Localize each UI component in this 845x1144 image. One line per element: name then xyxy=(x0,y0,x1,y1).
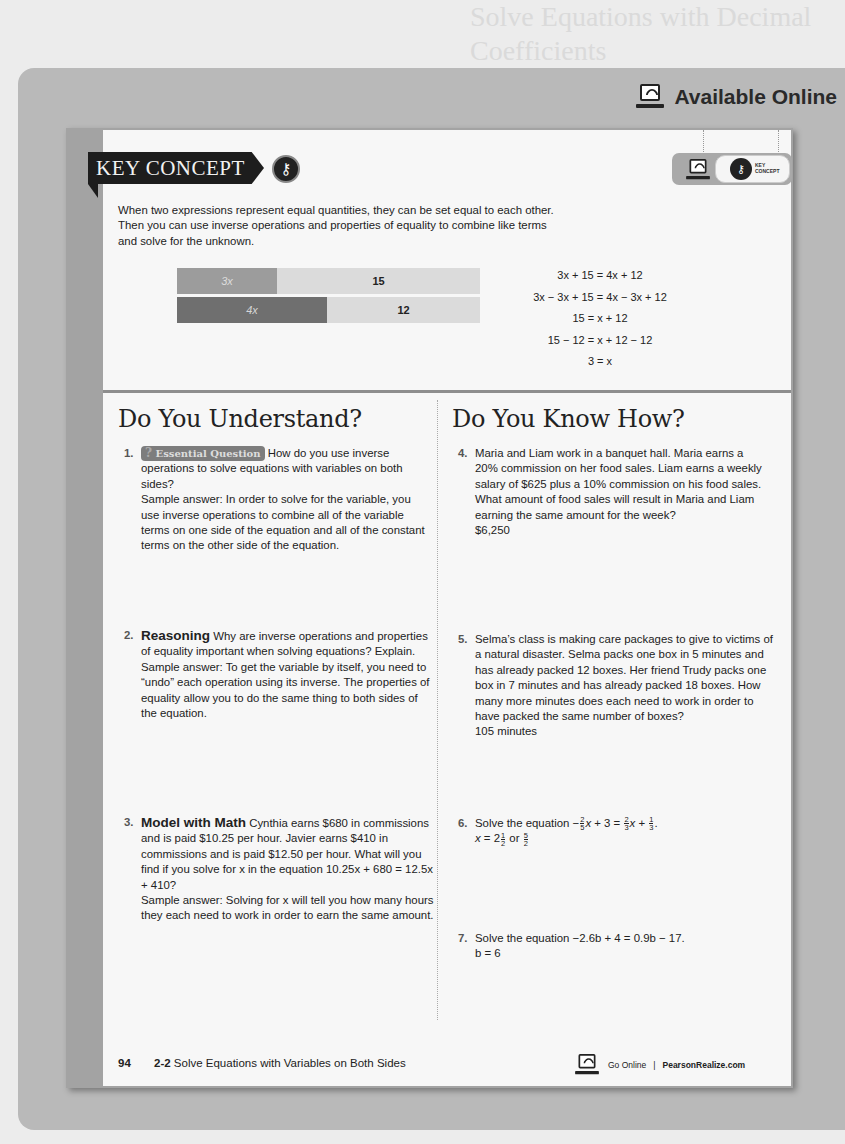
dotted-guide xyxy=(778,130,779,152)
laptop-wifi-icon xyxy=(575,1054,599,1076)
bar-model-row-2: 4x 12 xyxy=(177,297,480,323)
question-4: 4. Maria and Liam work in a banquet hall… xyxy=(475,446,765,538)
lesson-number: 2-2 xyxy=(154,1057,171,1069)
equation-step: 3 = x xyxy=(500,351,700,373)
answer: b = 6 xyxy=(475,947,501,959)
laptop-wifi-icon xyxy=(636,84,664,110)
equation-step: 15 − 12 = x + 12 − 12 xyxy=(500,330,700,352)
question-5: 5. Selma’s class is making care packages… xyxy=(475,632,775,740)
bar-segment-15: 15 xyxy=(277,268,480,294)
question-2: 2. Reasoning Why are inverse operations … xyxy=(141,628,431,721)
equation-step: 3x − 3x + 15 = 4x − 3x + 12 xyxy=(500,287,700,309)
lesson-title: Solve Equations with Variables on Both S… xyxy=(174,1057,406,1069)
question-mark-icon: ? xyxy=(145,446,152,460)
question-7: 7. Solve the equation −2.6b + 4 = 0.9b −… xyxy=(475,931,775,962)
bar-segment-12: 12 xyxy=(327,297,480,323)
essential-question-badge: ? Essential Question xyxy=(141,446,265,461)
answer: x = 212 or 52 xyxy=(475,832,529,844)
answer: Sample answer: Solving for x will tell y… xyxy=(141,894,434,921)
answer: Sample answer: To get the variable by it… xyxy=(141,661,430,719)
bar-segment-3x: 3x xyxy=(177,268,277,294)
page-footer: 94 2-2 Solve Equations with Variables on… xyxy=(118,1057,406,1069)
site-link[interactable]: PearsonRealize.com xyxy=(663,1060,746,1070)
background-ghost-text: Solve Equations with Decimal Coefficient… xyxy=(470,0,845,70)
dotted-guide xyxy=(703,130,704,152)
equation: −25x + 3 = 23x + 13. xyxy=(573,817,658,829)
section-divider xyxy=(103,390,791,393)
section-title-understand: Do You Understand? xyxy=(118,405,362,433)
answer: Sample answer: In order to solve for the… xyxy=(141,493,425,551)
key-concept-banner: KEY CONCEPT xyxy=(88,152,264,184)
answer: $6,250 xyxy=(475,524,510,536)
available-online-text: Available Online xyxy=(674,85,837,109)
bar-segment-4x: 4x xyxy=(177,297,327,323)
question-1: 1. ? Essential Question How do you use i… xyxy=(141,446,431,554)
key-concept-text: When two expressions represent equal qua… xyxy=(118,203,558,249)
question-6: 6. Solve the equation −25x + 3 = 23x + 1… xyxy=(475,816,775,847)
laptop-wifi-icon xyxy=(686,159,710,181)
question-3: 3. Model with Math Cynthia earns $680 in… xyxy=(141,815,436,924)
section-title-know-how: Do You Know How? xyxy=(452,405,685,433)
equation-step: 15 = x + 12 xyxy=(500,308,700,330)
equation-steps: 3x + 15 = 4x + 12 3x − 3x + 15 = 4x − 3x… xyxy=(500,265,700,373)
bar-model-row-1: 3x 15 xyxy=(177,268,480,294)
key-concept-pill-label: KEY CONCEPT xyxy=(755,162,779,174)
column-divider xyxy=(437,400,438,1020)
equation-step: 3x + 15 = 4x + 12 xyxy=(500,265,700,287)
key-icon: ⚷ xyxy=(730,158,752,180)
page-number: 94 xyxy=(118,1057,131,1069)
available-online-label[interactable]: Available Online xyxy=(636,84,837,110)
key-icon: ⚷ xyxy=(272,155,300,183)
go-online-link[interactable]: Go Online | PearsonRealize.com xyxy=(573,1052,745,1078)
answer: 105 minutes xyxy=(475,725,537,737)
